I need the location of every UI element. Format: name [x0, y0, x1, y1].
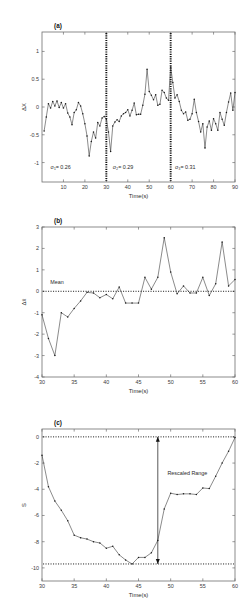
y-tick-label: -3	[34, 353, 39, 359]
data-point	[61, 509, 63, 511]
y-tick-label: 2	[36, 245, 39, 251]
data-point	[99, 542, 101, 544]
data-point	[221, 462, 223, 464]
data-point	[166, 97, 168, 99]
data-point	[168, 100, 170, 102]
data-point	[189, 292, 191, 294]
x-tick-label: 30	[39, 583, 45, 589]
data-point	[46, 116, 48, 118]
data-point	[67, 316, 69, 318]
data-point	[67, 520, 69, 522]
data-point	[86, 135, 88, 137]
data-point	[189, 118, 191, 120]
data-point	[215, 123, 217, 125]
data-point	[221, 118, 223, 120]
data-point	[99, 297, 101, 299]
data-point	[161, 90, 163, 92]
x-axis-label: Time(s)	[129, 592, 148, 598]
data-point	[93, 292, 95, 294]
data-point	[226, 112, 228, 114]
data-point	[61, 102, 63, 104]
y-tick-label: -8	[34, 539, 39, 545]
data-point	[144, 93, 146, 95]
data-point	[194, 98, 196, 100]
data-point	[48, 103, 50, 105]
data-point	[209, 120, 211, 122]
data-point	[213, 118, 215, 120]
data-point	[148, 91, 150, 93]
data-point	[202, 123, 204, 125]
data-point	[196, 112, 198, 114]
data-point	[112, 125, 114, 127]
data-point	[151, 95, 153, 97]
data-point	[185, 111, 187, 113]
arrow-head-up	[156, 437, 160, 442]
y-axis-label: S	[21, 503, 27, 507]
data-point	[202, 487, 204, 489]
data-point	[221, 241, 223, 243]
data-point	[93, 541, 95, 543]
data-point	[80, 105, 82, 107]
plot-annotation: σ₂= 0.29	[113, 164, 134, 170]
data-point	[54, 500, 56, 502]
y-axis-label: Δx̄	[21, 299, 27, 306]
data-point	[41, 314, 43, 316]
data-point	[151, 288, 153, 290]
data-point	[97, 122, 99, 124]
data-point	[232, 110, 234, 112]
data-point	[125, 559, 127, 561]
data-point	[131, 110, 133, 112]
data-point	[73, 308, 75, 310]
data-point	[123, 113, 125, 115]
x-tick-label: 10	[60, 184, 66, 190]
x-tick-label: 70	[189, 184, 195, 190]
data-point	[69, 116, 71, 118]
data-point	[163, 237, 165, 239]
x-tick-label: 60	[232, 583, 238, 589]
y-tick-label: 0.5	[32, 76, 40, 82]
data-point	[78, 102, 80, 104]
data-point	[144, 277, 146, 279]
data-point	[183, 493, 185, 495]
data-point	[176, 293, 178, 295]
panel-label: (c)	[54, 419, 62, 427]
data-point	[95, 137, 97, 139]
data-point	[114, 121, 116, 123]
data-point	[52, 101, 54, 103]
y-tick-label: -2	[34, 331, 39, 337]
data-point	[63, 107, 65, 109]
data-point	[91, 141, 93, 143]
y-tick-label: -4	[34, 374, 39, 380]
x-tick-label: 20	[82, 184, 88, 190]
data-point	[65, 103, 67, 105]
data-point	[106, 294, 108, 296]
y-tick-label: 0	[36, 104, 39, 110]
x-axis-label: Time(s)	[129, 193, 148, 199]
plot-frame	[42, 32, 235, 182]
data-point	[189, 493, 191, 495]
plot-frame	[42, 429, 235, 581]
data-point	[157, 540, 159, 542]
data-point	[140, 113, 142, 115]
data-point	[86, 292, 88, 294]
y-tick-label: -10	[31, 565, 39, 571]
x-tick-label: 40	[103, 583, 109, 589]
x-tick-label: 80	[211, 184, 217, 190]
data-point	[80, 300, 82, 302]
y-tick-label: 0	[36, 434, 39, 440]
panel-b-plot: 303540455055603210-1-2-3-4(b)Time(s)Δx̄M…	[0, 205, 249, 403]
data-point	[224, 125, 226, 127]
data-point	[159, 103, 161, 105]
data-point	[157, 105, 159, 107]
data-point	[187, 120, 189, 122]
data-point	[125, 302, 127, 304]
data-point	[204, 147, 206, 149]
panel-label: (a)	[54, 22, 62, 30]
x-tick-label: 90	[232, 184, 238, 190]
data-point	[206, 126, 208, 128]
data-point	[157, 277, 159, 279]
data-point	[125, 112, 127, 114]
panel-a: 10203040506070809010.50-0.5-1(a)Time(s)Δ…	[0, 0, 249, 205]
x-tick-label: 55	[200, 379, 206, 385]
data-point	[136, 114, 138, 116]
